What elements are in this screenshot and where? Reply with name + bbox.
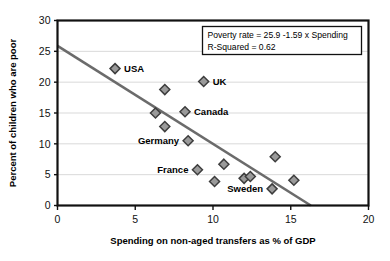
scatter-chart: 05101520253005101520Spending on non-aged… [0, 0, 390, 261]
y-axis-title: Percent of children who are poor [7, 39, 18, 188]
x-axis-title: Spending on non-aged transfers as % of G… [110, 235, 316, 246]
annotation-r-squared: R-Squared = 0.62 [208, 42, 276, 52]
y-axis-tick-label: 25 [39, 45, 51, 57]
y-axis-tick-label: 0 [45, 199, 51, 211]
x-axis-tick-label: 10 [207, 213, 219, 225]
annotation-equation: Poverty rate = 25.9 -1.59 x Spending [208, 30, 348, 40]
data-point-label: France [157, 164, 188, 175]
data-point-label: UK [213, 76, 227, 87]
x-axis-tick-label: 15 [285, 213, 297, 225]
y-axis-tick-label: 30 [39, 14, 51, 26]
data-point-label: Canada [194, 106, 229, 117]
x-axis-tick-label: 20 [363, 213, 375, 225]
y-axis-tick-label: 15 [39, 107, 51, 119]
y-axis-tick-label: 20 [39, 76, 51, 88]
data-point-label: USA [124, 63, 144, 74]
chart-canvas: 05101520253005101520Spending on non-aged… [0, 0, 390, 261]
data-point-label: Germany [138, 135, 180, 146]
data-point-label: Sweden [227, 183, 263, 194]
y-axis-tick-label: 5 [45, 168, 51, 180]
x-axis-tick-label: 5 [132, 213, 138, 225]
y-axis-tick-label: 10 [39, 138, 51, 150]
x-axis-tick-label: 0 [55, 213, 61, 225]
